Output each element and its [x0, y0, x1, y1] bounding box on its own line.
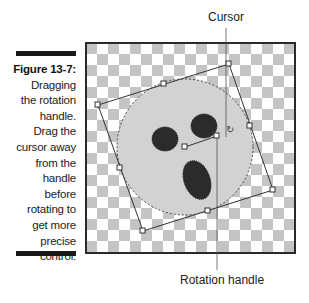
rotation-handle[interactable] [214, 133, 219, 138]
rotation-illustration: ↻ [0, 0, 309, 303]
corner-handle-top-left[interactable] [95, 102, 100, 107]
rotation-handle-callout-label: Rotation handle [180, 273, 264, 287]
corner-handle-bottom-left[interactable] [140, 228, 145, 233]
spot-right [191, 114, 217, 138]
corner-handle-bottom-right[interactable] [270, 187, 275, 192]
rotate-cursor-icon: ↻ [226, 124, 234, 135]
corner-handle-top-right[interactable] [226, 61, 231, 66]
side-handle-left[interactable] [117, 165, 122, 170]
center-point-handle[interactable] [182, 144, 187, 149]
side-handle-right[interactable] [247, 123, 252, 128]
spot-left [152, 127, 178, 151]
side-handle-bottom[interactable] [205, 208, 210, 213]
side-handle-top[interactable] [161, 81, 166, 86]
cursor-callout-label: Cursor [208, 10, 244, 24]
